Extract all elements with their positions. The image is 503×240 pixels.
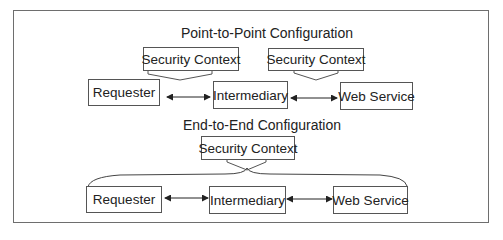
requester-box-top: Requester: [88, 79, 160, 106]
web-service-box-top: Web Service: [340, 82, 413, 110]
intermediary-box-top: Intermediary: [213, 81, 288, 109]
end-to-end-title: End-to-End Configuration: [183, 117, 341, 133]
requester-box-bottom: Requester: [86, 186, 162, 213]
security-context-box-1: Security Context: [143, 47, 239, 71]
web-service-box-bottom: Web Service: [333, 186, 408, 214]
security-context-box-e2e: Security Context: [201, 136, 295, 160]
security-context-box-2: Security Context: [268, 48, 364, 71]
intermediary-box-bottom: Intermediary: [209, 186, 286, 214]
point-to-point-title: Point-to-Point Configuration: [181, 25, 353, 41]
